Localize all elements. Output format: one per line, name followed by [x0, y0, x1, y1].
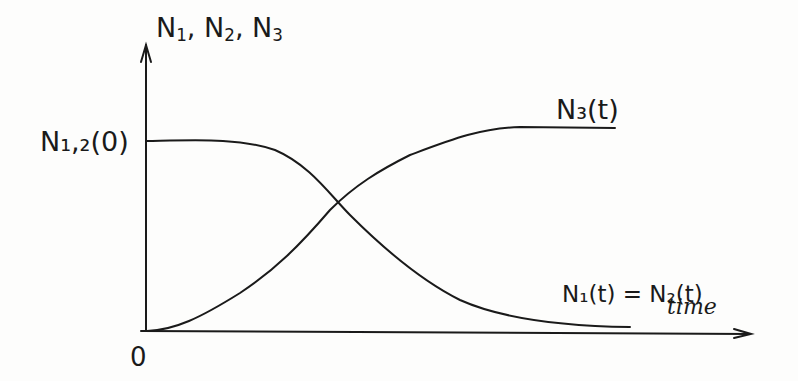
y-axis-label: N1, N2, N3 — [156, 14, 283, 44]
x-axis-label: time — [667, 296, 717, 318]
curve-label-n3: N₃(t) — [556, 96, 619, 123]
x-axis — [141, 331, 750, 334]
initial-value-label: N₁,₂(0) — [40, 128, 129, 155]
plot-svg — [0, 0, 798, 381]
diagram-canvas: N1, N2, N3 N₁,₂(0) N₃(t) N₁(t) = N₂(t) t… — [0, 0, 798, 381]
curve-n1-n2 — [147, 140, 630, 327]
origin-label: 0 — [130, 344, 147, 370]
curve-n3 — [147, 127, 615, 331]
